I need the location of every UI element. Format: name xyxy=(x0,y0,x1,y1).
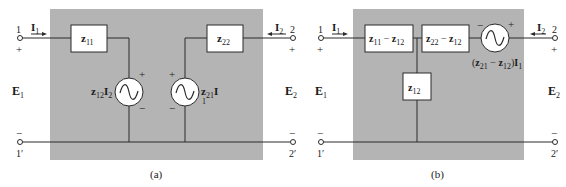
port1-plus: + xyxy=(317,43,323,55)
terminal-1 xyxy=(319,36,324,41)
caption-a: (a) xyxy=(150,168,163,181)
source-left-plus: + xyxy=(139,68,145,80)
terminal-1-prime xyxy=(18,140,23,145)
source-right-minus: − xyxy=(169,102,175,114)
diagram-b: 1 + − 1′ E1 I1 z11 − z12 z22 − z12 z12 −… xyxy=(315,9,560,181)
terminal-2-prime xyxy=(291,140,296,145)
source-right-var-sub: 1 xyxy=(202,97,206,106)
terminal-1-label: 1 xyxy=(16,24,21,35)
terminal-2 xyxy=(553,36,558,41)
source-left-minus: − xyxy=(139,102,145,114)
port2-plus: + xyxy=(289,43,295,55)
terminal-2-label: 2 xyxy=(552,24,557,35)
terminal-2-prime xyxy=(553,140,558,145)
terminal-2-prime-label: 2′ xyxy=(551,148,558,159)
diagram-a: 1 + − 1′ E1 I1 z11 z22 + − z12I2 + − xyxy=(12,9,297,181)
voltage-e1: E1 xyxy=(315,84,327,100)
terminal-2 xyxy=(291,36,296,41)
port1-plus: + xyxy=(16,43,22,55)
source-plus: + xyxy=(508,18,514,30)
port2-plus: + xyxy=(551,43,557,55)
port1-minus: − xyxy=(16,127,22,139)
voltage-e2: E2 xyxy=(548,84,560,100)
two-port-network-diagrams: 1 + − 1′ E1 I1 z11 z22 + − z12I2 + − xyxy=(0,0,566,187)
port2-minus: − xyxy=(289,127,295,139)
port1-minus: − xyxy=(317,127,323,139)
terminal-1-label: 1 xyxy=(318,24,323,35)
terminal-1-prime xyxy=(319,140,324,145)
terminal-1 xyxy=(18,36,23,41)
voltage-e2: E2 xyxy=(285,84,297,100)
terminal-2-label: 2 xyxy=(290,24,295,35)
port2-minus: − xyxy=(551,127,557,139)
terminal-2-prime-label: 2′ xyxy=(289,148,296,159)
caption-b: (b) xyxy=(431,168,444,181)
ac-source-icon xyxy=(481,24,509,52)
terminal-1-prime-label: 1′ xyxy=(317,148,324,159)
source-minus: − xyxy=(477,19,483,31)
source-right-plus: + xyxy=(169,68,175,80)
terminal-1-prime-label: 1′ xyxy=(16,148,23,159)
voltage-e1: E1 xyxy=(12,84,24,100)
